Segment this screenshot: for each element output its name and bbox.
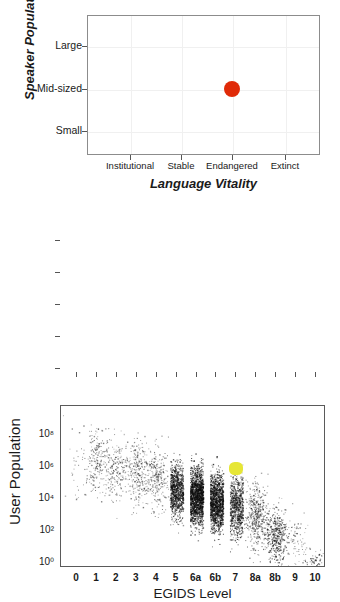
bottom-chart-y-tick-mark — [55, 336, 60, 337]
top-chart-plot-area — [87, 15, 320, 155]
top-chart-gridline-horizontal — [88, 132, 319, 133]
bottom-chart-x-tick-mark — [116, 372, 117, 377]
top-chart-x-tick-mark — [181, 155, 182, 160]
top-chart-y-tick-large: Large — [55, 39, 82, 51]
bottom-chart-y-tick-0: 10⁸ — [39, 428, 54, 439]
top-chart-gridline-horizontal — [88, 90, 319, 91]
highlighted-language-point-red — [224, 81, 240, 97]
bottom-chart-y-tick-mark — [55, 272, 60, 273]
top-chart-y-tick-mark — [82, 46, 87, 47]
bottom-chart-y-tick-3: 10² — [40, 524, 54, 535]
bottom-chart-y-tick-2: 10⁴ — [39, 492, 54, 503]
top-chart-x-tick-mark — [232, 155, 233, 160]
top-chart-x-axis-title: Language Vitality — [87, 176, 320, 191]
bottom-chart-y-tick-mark — [55, 368, 60, 369]
bottom-chart-x-tick-mark — [215, 372, 216, 377]
bottom-chart-x-tick-mark — [235, 372, 236, 377]
top-chart-gridline-vertical — [182, 16, 183, 154]
bottom-chart-x-tick-mark — [96, 372, 97, 377]
bottom-chart-y-tick-mark — [55, 240, 60, 241]
top-chart-y-tick-labels: LargeMid-sizedSmall — [30, 0, 82, 200]
bottom-chart-x-tick-mark — [315, 372, 316, 377]
top-chart-y-tick-small: Small — [56, 124, 82, 136]
top-chart-gridline-horizontal — [88, 47, 319, 48]
top-chart-x-tick-mark — [130, 155, 131, 160]
highlighted-language-point-yellow — [229, 462, 243, 475]
top-chart-gridline-vertical — [131, 16, 132, 154]
bottom-chart-x-tick-10: 10 — [300, 572, 330, 583]
bottom-chart-x-tick-mark — [176, 372, 177, 377]
top-chart-y-tick-mark — [82, 131, 87, 132]
bottom-chart-x-tick-mark — [156, 372, 157, 377]
bottom-chart-y-tick-1: 10⁶ — [39, 460, 54, 471]
bottom-chart-y-tick-labels: 10⁸10⁶10⁴10²10⁰ — [14, 390, 54, 602]
bottom-chart-x-axis-title: EGIDS Level — [60, 586, 325, 601]
bottom-chart-x-tick-mark — [136, 372, 137, 377]
bottom-chart-x-tick-mark — [275, 372, 276, 377]
top-chart-gridline-vertical — [286, 16, 287, 154]
bottom-chart-y-tick-4: 10⁰ — [39, 556, 54, 567]
top-chart-x-tick-extinct: Extinct — [245, 160, 325, 171]
top-chart-y-tick-mid-sized: Mid-sized — [37, 82, 82, 94]
bottom-chart-x-tick-mark — [76, 372, 77, 377]
bottom-chart-x-tick-mark — [196, 372, 197, 377]
bottom-chart-plot-area — [60, 405, 325, 567]
scatter-point-cloud — [61, 406, 325, 567]
bottom-chart-x-tick-mark — [295, 372, 296, 377]
bottom-chart-x-tick-mark — [255, 372, 256, 377]
top-chart-x-tick-mark — [285, 155, 286, 160]
user-population-chart: User Population 10⁸10⁶10⁴10²10⁰ EGIDS Le… — [0, 195, 340, 409]
bottom-chart-y-tick-mark — [55, 304, 60, 305]
top-chart-y-tick-mark — [82, 89, 87, 90]
speaker-population-chart: Speaker Population LargeMid-sizedSmall L… — [0, 0, 340, 200]
